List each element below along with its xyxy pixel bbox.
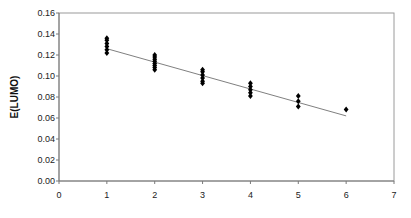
y-tick-label: 0.00 xyxy=(37,176,55,186)
x-tick-label: 2 xyxy=(152,190,157,200)
trendline xyxy=(107,49,346,116)
data-points xyxy=(104,35,348,112)
x-tick-label: 7 xyxy=(391,190,396,200)
x-tick-label: 4 xyxy=(248,190,253,200)
y-tick-label: 0.12 xyxy=(37,50,55,60)
y-tick-label: 0.14 xyxy=(37,29,55,39)
x-tick-label: 6 xyxy=(344,190,349,200)
x-tick-label: 0 xyxy=(56,190,61,200)
y-axis: 0.000.020.040.060.080.100.120.140.16 xyxy=(37,8,59,186)
x-tick-label: 3 xyxy=(200,190,205,200)
diamond-marker xyxy=(344,107,349,113)
y-tick-label: 0.02 xyxy=(37,155,55,165)
y-tick-label: 0.16 xyxy=(37,8,55,18)
x-axis: 01234567 xyxy=(56,181,396,200)
trendline-segment xyxy=(107,49,346,116)
y-tick-label: 0.08 xyxy=(37,92,55,102)
scatter-chart: 0.000.020.040.060.080.100.120.140.16 012… xyxy=(0,0,411,218)
y-tick-label: 0.10 xyxy=(37,71,55,81)
y-axis-title: E(LUMO) xyxy=(9,76,20,119)
diamond-marker xyxy=(248,80,253,86)
diamond-marker xyxy=(296,103,301,109)
x-tick-label: 1 xyxy=(104,190,109,200)
diamond-marker xyxy=(296,93,301,99)
y-tick-label: 0.04 xyxy=(37,134,55,144)
y-tick-label: 0.06 xyxy=(37,113,55,123)
x-tick-label: 5 xyxy=(296,190,301,200)
